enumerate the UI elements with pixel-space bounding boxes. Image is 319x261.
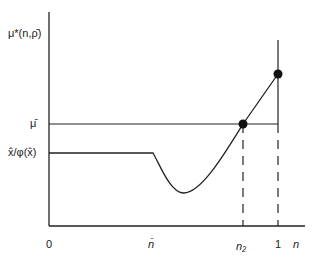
x-axis-label: n	[293, 238, 299, 250]
y-tick-xhat-phi: x̂/φ(x̂)	[8, 146, 37, 158]
y-tick-mu-bar: μ̄	[30, 117, 36, 129]
endpoint-point	[274, 70, 283, 79]
x-tick-one: 1	[275, 238, 281, 250]
mu-star-curve	[49, 74, 278, 193]
intersection-point	[239, 120, 248, 129]
x-tick-zero: 0	[46, 238, 52, 250]
x-tick-n2: n₂	[236, 240, 246, 252]
y-axis-label: μ*(n,ρ̄)	[8, 27, 41, 39]
diagram-canvas	[0, 0, 319, 261]
x-tick-n-bar: n̄	[148, 238, 154, 250]
